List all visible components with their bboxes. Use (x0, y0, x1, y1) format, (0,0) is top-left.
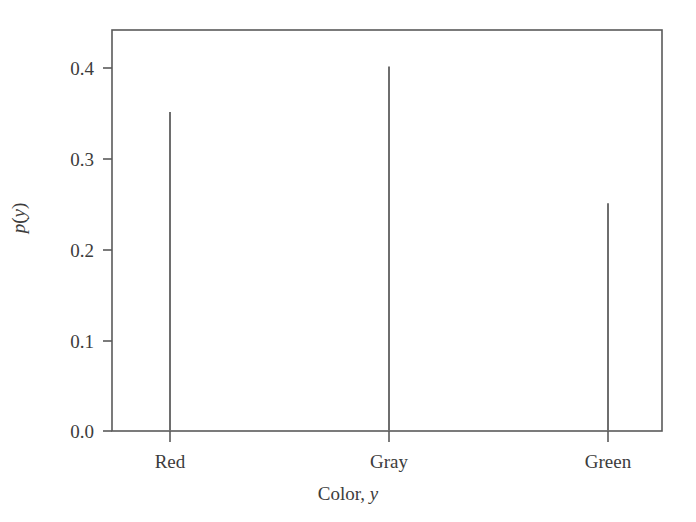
x-tick-label-red: Red (110, 452, 230, 471)
chart-figure: 0.0 0.1 0.2 0.3 0.4 Red Gray Green Color… (0, 0, 696, 522)
x-axis-title-text: Color, (318, 483, 365, 504)
x-tick-label-green: Green (548, 452, 668, 471)
y-axis-title-paren-close: ) (8, 203, 29, 209)
y-tick-label-2: 0.2 (46, 241, 94, 260)
x-axis-title: Color, y (0, 484, 696, 503)
y-axis-ticks (103, 68, 112, 431)
data-stems (170, 66, 608, 431)
y-tick-label-4: 0.4 (46, 59, 94, 78)
x-axis-ticks (170, 431, 608, 442)
y-tick-label-0: 0.0 (46, 422, 94, 441)
plot-frame (112, 30, 662, 431)
x-tick-label-gray: Gray (329, 452, 449, 471)
y-axis-title-p: p (8, 224, 29, 234)
plot-canvas (0, 0, 696, 522)
y-axis-title-y: y (8, 209, 29, 217)
y-axis-title-paren-open: ( (8, 217, 29, 223)
y-axis-title: p(y) (5, 178, 31, 258)
y-tick-label-1: 0.1 (46, 332, 94, 351)
y-tick-label-3: 0.3 (46, 150, 94, 169)
x-axis-title-variable: y (370, 483, 378, 504)
